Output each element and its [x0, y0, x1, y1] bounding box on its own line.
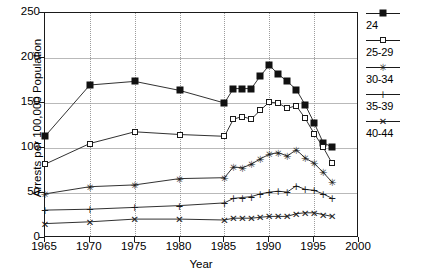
legend-entry-24[interactable]: 24 [366, 8, 423, 32]
x-tick-label: 1985 [200, 241, 246, 253]
x-tick-label: 1995 [290, 241, 336, 253]
series-line-35-39 [45, 186, 332, 210]
legend-label: 30-34 [366, 73, 423, 86]
chart-figure: ✳✳✳✳✳✳✳✳✳✳✳✳✳✳✳✳✳+++++++++++++++++✕✕✕✕✕✕… [0, 0, 423, 280]
legend-label: 24 [366, 19, 423, 32]
legend-label: 25-29 [366, 46, 423, 59]
x-tick-label: 1990 [245, 241, 291, 253]
legend-marker-open-square [366, 35, 406, 46]
legend-entry-35-39[interactable]: +35-39 [366, 89, 423, 113]
series-lines-layer [45, 13, 359, 238]
legend-line [366, 13, 400, 14]
legend-marker-filled-square [366, 8, 406, 19]
legend-line [366, 40, 400, 41]
legend-marker-star: ✳ [366, 62, 406, 73]
x-tick-label: 1970 [66, 241, 112, 253]
x-tick-mark [268, 237, 269, 242]
x-tick-label: 2000 [335, 241, 381, 253]
x-tick-mark [223, 237, 224, 242]
x-tick-mark [358, 237, 359, 242]
series-line-40-44 [45, 213, 332, 224]
legend-label: 35-39 [366, 100, 423, 113]
legend-marker-plus: + [366, 89, 406, 100]
legend-entry-40-44[interactable]: ✕40-44 [366, 116, 423, 140]
legend-line [366, 121, 400, 122]
legend-label: 40-44 [366, 127, 423, 140]
x-tick-mark [313, 237, 314, 242]
x-tick-label: 1980 [156, 241, 202, 253]
legend-marker-x: ✕ [366, 116, 406, 127]
y-axis-label: Arrests per 100,000 Population [31, 13, 43, 223]
x-tick-label: 1975 [111, 241, 157, 253]
series-line-30-34 [45, 150, 332, 194]
x-tick-mark [134, 237, 135, 242]
legend-line [366, 94, 400, 95]
legend: 2425-29✳30-34+35-39✕40-44 [366, 8, 423, 143]
x-tick-mark [44, 237, 45, 242]
legend-entry-30-34[interactable]: ✳30-34 [366, 62, 423, 86]
x-axis-label: Year [44, 258, 358, 270]
x-tick-mark [179, 237, 180, 242]
plot-area: ✳✳✳✳✳✳✳✳✳✳✳✳✳✳✳✳✳+++++++++++++++++✕✕✕✕✕✕… [44, 12, 358, 237]
x-tick-label: 1965 [21, 241, 67, 253]
legend-line [366, 67, 400, 68]
legend-entry-25-29[interactable]: 25-29 [366, 35, 423, 59]
x-tick-mark [89, 237, 90, 242]
